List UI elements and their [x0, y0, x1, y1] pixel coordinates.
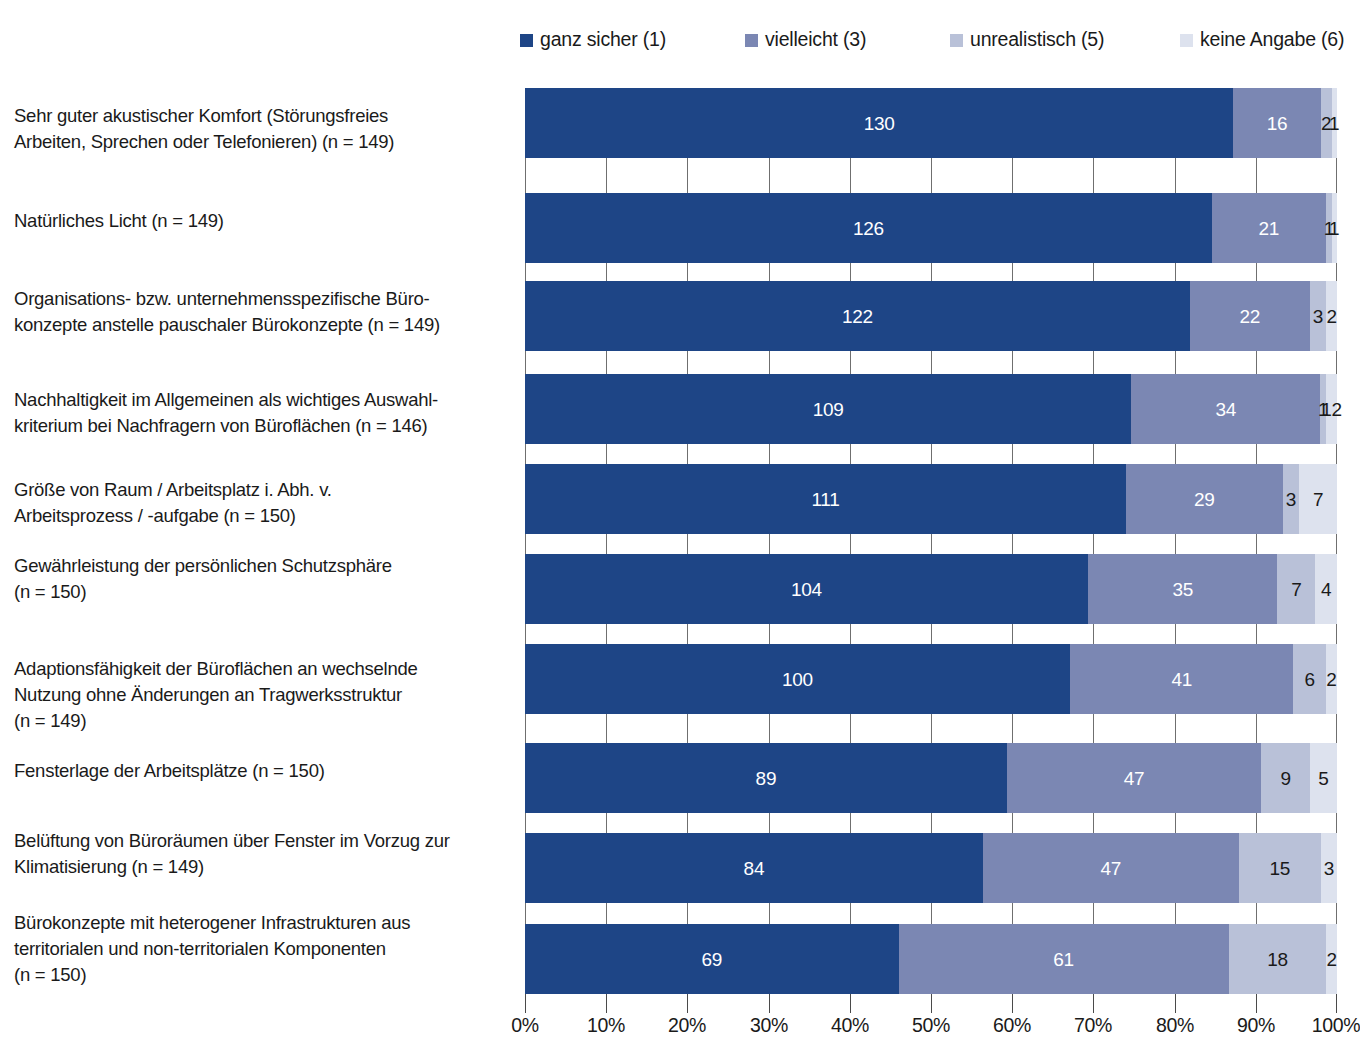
category-label-line: Klimatisierung (n = 149) [14, 854, 514, 880]
bar-segment-2[interactable]: 16 [1233, 88, 1320, 158]
bar-value-label: 109 [813, 400, 844, 419]
bar-segment-3[interactable]: 15 [1239, 833, 1321, 903]
bar-segment-4[interactable]: 3 [1321, 833, 1337, 903]
category-label-line: Bürokonzepte mit heterogener Infrastrukt… [14, 910, 514, 936]
legend-item-1[interactable]: vielleicht (3) [745, 26, 866, 54]
category-label: Adaptionsfähigkeit der Büroflächen an we… [14, 656, 514, 734]
bar-segment-2[interactable]: 41 [1070, 644, 1293, 714]
bar-segment-2[interactable]: 61 [899, 924, 1229, 994]
category-label: Fensterlage der Arbeitsplätze (n = 150) [14, 758, 514, 784]
bar-value-label: 16 [1267, 114, 1288, 133]
category-label: Sehr guter akustischer Komfort (Störungs… [14, 103, 514, 155]
bar-segment-4[interactable]: 5 [1310, 743, 1337, 813]
legend-swatch-icon [1180, 34, 1193, 47]
bar-segment-2[interactable]: 21 [1212, 193, 1326, 263]
bar-row[interactable]: 1112937 [525, 464, 1337, 534]
axis-tick [931, 994, 932, 1013]
bar-value-label: 2 [1326, 307, 1336, 326]
bar-row[interactable]: 6961182 [525, 924, 1337, 994]
bar-segment-1[interactable]: 130 [525, 88, 1233, 158]
category-label-line: Nutzung ohne Änderungen an Tragwerksstru… [14, 682, 514, 708]
x-axis: 0%10%20%30%40%50%60%70%80%90%100% [525, 994, 1337, 1055]
bar-segment-2[interactable]: 29 [1126, 464, 1283, 534]
bar-segment-4[interactable]: 12 [1326, 374, 1337, 444]
axis-tick [850, 994, 851, 1013]
bar-segment-3[interactable]: 3 [1310, 281, 1326, 351]
bar-segment-1[interactable]: 104 [525, 554, 1088, 624]
bar-segment-4[interactable]: 4 [1315, 554, 1337, 624]
category-label: Gewährleistung der persönlichen Schutzsp… [14, 553, 514, 605]
bar-value-label: 100 [782, 670, 813, 689]
bar-row[interactable]: 894795 [525, 743, 1337, 813]
bar-value-label: 35 [1172, 580, 1193, 599]
axis-tick-label: 10% [587, 1016, 625, 1036]
bar-value-label: 15 [1269, 859, 1290, 878]
bar-value-label: 29 [1194, 490, 1215, 509]
bar-row[interactable]: 1301621 [525, 88, 1337, 158]
bar-value-label: 12 [1321, 400, 1342, 419]
axis-tick-label: 0% [511, 1016, 539, 1036]
bar-segment-1[interactable]: 111 [525, 464, 1126, 534]
legend-item-0[interactable]: ganz sicher (1) [520, 26, 666, 54]
bar-segment-1[interactable]: 89 [525, 743, 1007, 813]
bar-segment-4[interactable]: 7 [1299, 464, 1337, 534]
axis-tick [769, 994, 770, 1013]
bar-value-label: 9 [1280, 769, 1290, 788]
bar-value-label: 122 [842, 307, 873, 326]
category-label-line: (n = 149) [14, 708, 514, 734]
bar-value-label: 4 [1321, 580, 1331, 599]
bar-segment-1[interactable]: 126 [525, 193, 1212, 263]
axis-tick [1175, 994, 1176, 1013]
axis-tick [1093, 994, 1094, 1013]
axis-tick-label: 70% [1074, 1016, 1112, 1036]
bar-row[interactable]: 1262111 [525, 193, 1337, 263]
bar-segment-4[interactable]: 2 [1326, 924, 1337, 994]
bar-segment-4[interactable]: 2 [1326, 644, 1337, 714]
bar-value-label: 7 [1291, 580, 1301, 599]
bar-segment-2[interactable]: 22 [1190, 281, 1310, 351]
bar-segment-3[interactable]: 18 [1229, 924, 1326, 994]
axis-tick-label: 50% [912, 1016, 950, 1036]
bar-segment-3[interactable]: 7 [1277, 554, 1315, 624]
bar-row[interactable]: 1043574 [525, 554, 1337, 624]
bar-segment-4[interactable]: 1 [1332, 193, 1337, 263]
bar-segment-1[interactable]: 109 [525, 374, 1131, 444]
bar-segment-1[interactable]: 69 [525, 924, 899, 994]
bar-segment-2[interactable]: 47 [983, 833, 1239, 903]
bar-value-label: 3 [1313, 307, 1323, 326]
category-label: Bürokonzepte mit heterogener Infrastrukt… [14, 910, 514, 988]
bar-segment-2[interactable]: 47 [1007, 743, 1261, 813]
bar-segment-1[interactable]: 122 [525, 281, 1190, 351]
bar-value-label: 34 [1215, 400, 1236, 419]
bar-segment-1[interactable]: 84 [525, 833, 983, 903]
category-label-line: (n = 150) [14, 579, 514, 605]
bar-row[interactable]: 10934112 [525, 374, 1337, 444]
bar-row[interactable]: 8447153 [525, 833, 1337, 903]
bar-segment-4[interactable]: 2 [1326, 281, 1337, 351]
axis-tick-label: 80% [1156, 1016, 1194, 1036]
bar-row[interactable]: 1222232 [525, 281, 1337, 351]
bar-row[interactable]: 1004162 [525, 644, 1337, 714]
category-label-line: Sehr guter akustischer Komfort (Störungs… [14, 103, 514, 129]
axis-tick [1012, 994, 1013, 1013]
bar-value-label: 47 [1101, 859, 1122, 878]
category-label-line: Nachhaltigkeit im Allgemeinen als wichti… [14, 387, 514, 413]
legend-item-2[interactable]: unrealistisch (5) [950, 26, 1104, 54]
bar-segment-3[interactable]: 9 [1261, 743, 1310, 813]
axis-tick [1336, 994, 1337, 1013]
bar-value-label: 69 [701, 950, 722, 969]
bar-value-label: 21 [1259, 219, 1280, 238]
legend-label: vielleicht (3) [765, 30, 866, 50]
axis-tick [687, 994, 688, 1013]
bar-value-label: 41 [1171, 670, 1192, 689]
bar-segment-3[interactable]: 6 [1293, 644, 1326, 714]
bar-segment-3[interactable]: 3 [1283, 464, 1299, 534]
bar-segment-4[interactable]: 1 [1332, 88, 1337, 158]
bar-segment-2[interactable]: 34 [1131, 374, 1320, 444]
bar-segment-2[interactable]: 35 [1088, 554, 1277, 624]
category-label-line: konzepte anstelle pauschaler Bürokonzept… [14, 312, 514, 338]
bar-segment-1[interactable]: 100 [525, 644, 1070, 714]
bar-value-label: 18 [1267, 950, 1288, 969]
legend-label: keine Angabe (6) [1200, 30, 1344, 50]
legend-item-3[interactable]: keine Angabe (6) [1180, 26, 1344, 54]
